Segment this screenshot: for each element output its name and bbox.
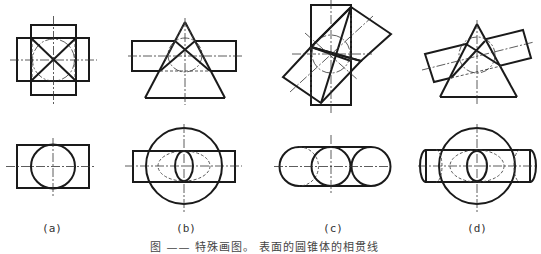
panel-d-front-view <box>422 20 534 105</box>
panel-label-c: (c) <box>323 222 343 235</box>
figure-caption: 图 —— 特殊画图。 表面的圆锥体的相贯线 <box>150 238 380 254</box>
panel-a-top-view <box>6 138 94 196</box>
panel-b-top-view <box>125 124 242 212</box>
panel-label-a: (a) <box>42 222 62 235</box>
panel-a-front-view <box>10 16 97 104</box>
panel-label-d: (d) <box>467 222 487 235</box>
panel-label-b: (b) <box>176 222 196 235</box>
panel-c-top-view <box>274 135 391 193</box>
panel-b-front-view <box>128 18 242 105</box>
panel-c-front-view <box>283 0 391 113</box>
panel-d-top-view <box>418 124 538 212</box>
